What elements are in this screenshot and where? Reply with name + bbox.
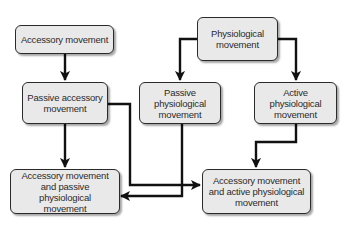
node-accessory-and-passive-physiological: Accessory movement and passive physiolog… [10,169,120,214]
arrow-physiological-to-active-physiological [278,39,296,80]
node-accessory-movement: Accessory movement [15,25,114,54]
node-label: Accessory movement and active physiologi… [209,175,305,208]
node-label: Accessory movement [21,34,108,45]
node-label: Physiological movement [211,28,264,50]
node-label: Accessory movement and passive physiolog… [14,170,116,214]
node-physiological-movement: Physiological movement [197,17,278,61]
node-active-physiological-movement: Active physiological movement [254,82,337,124]
node-accessory-and-active-physiological: Accessory movement and active physiologi… [202,169,311,214]
node-passive-accessory-movement: Passive accessory movement [22,82,108,124]
arrow-active-physiological-to-acc-active-phys [256,124,296,167]
node-passive-physiological-movement: Passive physiological movement [139,82,221,124]
node-label: Passive physiological movement [154,87,206,120]
arrow-physiological-to-passive-physiological [180,39,197,80]
node-label: Passive accessory movement [27,92,102,114]
node-label: Active physiological movement [270,87,322,120]
